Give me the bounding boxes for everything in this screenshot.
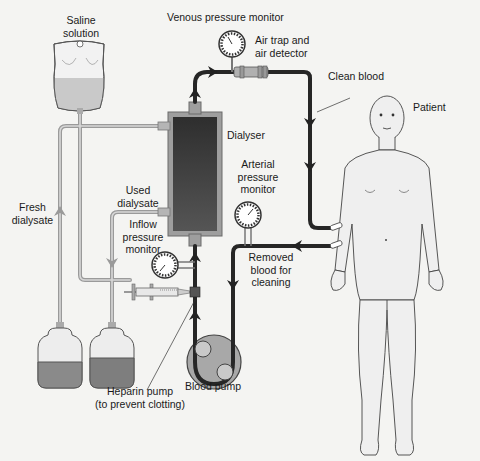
air-trap <box>234 66 268 78</box>
label-fresh-dialysate: Fresh dialysate <box>10 201 55 226</box>
label-clean-blood: Clean blood <box>328 70 384 83</box>
saline-bag <box>54 41 105 114</box>
label-line: Saline <box>60 14 102 27</box>
arterial-pressure-gauge <box>235 202 261 246</box>
label-line: dialysate <box>10 214 55 227</box>
label-line: monitor <box>233 183 283 196</box>
label-air-trap: Air trap and air detector <box>255 34 309 59</box>
inflow-pressure-gauge <box>152 252 195 278</box>
label-used-dialysate: Used dialysate <box>113 184 163 209</box>
label-inflow-pressure-monitor: Inflow pressure monitor <box>118 218 168 256</box>
label-patient: Patient <box>413 101 446 114</box>
label-line: Air trap and <box>255 34 309 47</box>
label-line: Used <box>113 184 163 197</box>
label-line: Fresh <box>10 201 55 214</box>
label-line: Inflow <box>118 218 168 231</box>
label-line: (to prevent clotting) <box>95 398 185 411</box>
label-arterial-pressure-monitor: Arterial pressure monitor <box>233 158 283 196</box>
label-saline-solution: Saline solution <box>60 14 102 39</box>
label-heparin-pump: Heparin pump (to prevent clotting) <box>95 385 185 410</box>
label-dialyser: Dialyser <box>227 129 265 142</box>
label-line: monitor <box>118 243 168 256</box>
label-blood-pump: Blood pump <box>183 380 243 393</box>
patient-figure <box>331 96 443 455</box>
hemodialysis-diagram: Saline solution Venous pressure monitor … <box>0 0 480 461</box>
used-dialysate-bottle <box>90 322 134 388</box>
label-line: pressure <box>233 171 283 184</box>
label-line: solution <box>60 27 102 40</box>
label-line: dialysate <box>113 197 163 210</box>
label-venous-pressure-monitor: Venous pressure monitor <box>167 11 284 24</box>
heparin-syringe <box>124 284 200 300</box>
label-removed-blood: Removed blood for cleaning <box>243 251 299 289</box>
label-line: pressure <box>118 231 168 244</box>
label-line: Arterial <box>233 158 283 171</box>
label-line: Heparin pump <box>95 385 185 398</box>
label-line: air detector <box>255 47 309 60</box>
fresh-dialysate-bottle <box>38 322 82 388</box>
label-line: blood for <box>243 264 299 277</box>
label-line: Removed <box>243 251 299 264</box>
label-line: cleaning <box>243 276 299 289</box>
